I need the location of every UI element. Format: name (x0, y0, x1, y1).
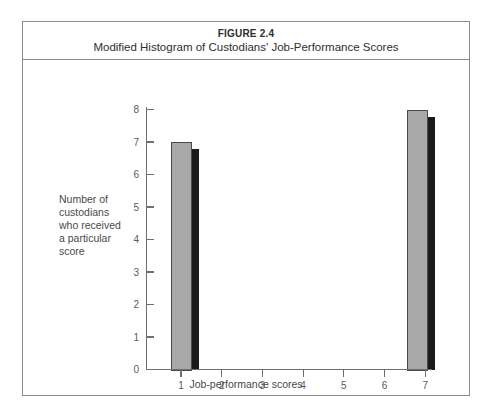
plot-region: Number of custodians who received a part… (23, 60, 469, 396)
y-tick-label-3: 3 (133, 267, 139, 278)
y-axis-label-line-5: score (59, 245, 85, 257)
bar-score-1-face (171, 142, 191, 370)
y-tick-label-4: 4 (133, 234, 139, 245)
y-axis-label-line-3: who received (58, 219, 121, 231)
y-axis-label: Number of custodians who received a part… (58, 193, 121, 257)
y-tick-label-5: 5 (133, 202, 139, 213)
y-axis-label-line-4: a particular (59, 232, 111, 244)
figure-container: FIGURE 2.4 Modified Histogram of Custodi… (22, 21, 470, 396)
bar-score-1 (171, 142, 199, 370)
figure-number: FIGURE 2.4 (218, 27, 274, 40)
y-tick-label-8: 8 (133, 104, 139, 115)
y-tick-label-7: 7 (133, 137, 139, 148)
bar-score-7 (407, 110, 435, 370)
y-tick-label-2: 2 (133, 299, 139, 310)
y-tick-label-6: 6 (133, 169, 139, 180)
x-axis-title-text: Job-performance scores (189, 378, 302, 390)
y-axis-ticks (147, 110, 154, 370)
figure-title: Modified Histogram of Custodians' Job-Pe… (93, 40, 398, 55)
y-axis-tick-labels: 0 1 2 3 4 5 6 7 8 (133, 104, 139, 375)
y-tick-label-1: 1 (133, 332, 139, 343)
histogram-chart: Number of custodians who received a part… (23, 60, 471, 396)
y-axis-label-line-2: custodians (59, 206, 109, 218)
figure-title-band: FIGURE 2.4 Modified Histogram of Custodi… (23, 22, 469, 60)
bar-score-7-face (407, 110, 427, 370)
y-axis-label-line-1: Number of (59, 193, 108, 205)
x-axis-title-container: Job-performance scores (22, 374, 470, 392)
